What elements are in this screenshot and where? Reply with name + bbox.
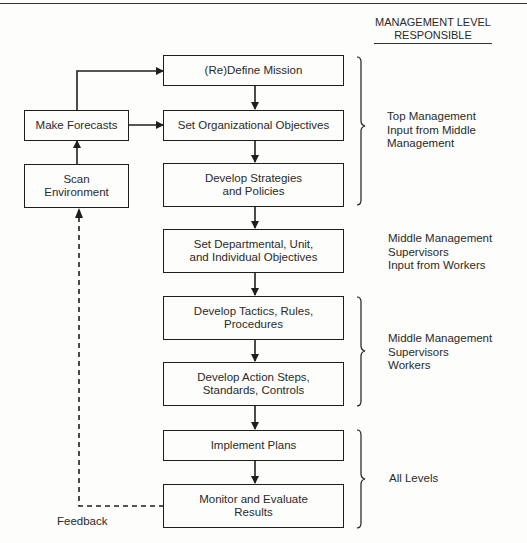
box-label: Implement Plans (211, 439, 297, 452)
box-tactics-rules: Develop Tactics, Rules, Procedures (163, 296, 344, 340)
box-label: Develop Strategies and Policies (205, 172, 302, 198)
box-make-forecasts: Make Forecasts (24, 110, 129, 141)
level-middle-input-workers: Middle Management Supervisors Input from… (388, 232, 492, 273)
box-label: Set Organizational Objectives (178, 119, 330, 132)
level-top-management: Top Management Input from Middle Managem… (387, 110, 476, 151)
box-label: Develop Tactics, Rules, Procedures (194, 305, 313, 331)
header-underline (374, 43, 492, 44)
level-middle-workers: Middle Management Supervisors Workers (388, 332, 492, 373)
box-label: Make Forecasts (36, 119, 118, 132)
management-level-header: MANAGEMENT LEVEL RESPONSIBLE (372, 16, 494, 42)
box-define-mission: (Re)Define Mission (163, 55, 344, 86)
level-all: All Levels (389, 472, 438, 486)
box-label: Scan Environment (44, 173, 109, 199)
box-label: Develop Action Steps, Standards, Control… (197, 371, 310, 397)
box-monitor-evaluate: Monitor and Evaluate Results (163, 484, 344, 528)
box-strategies-policies: Develop Strategies and Policies (163, 163, 344, 207)
box-scan-environment: Scan Environment (24, 164, 129, 208)
box-action-steps: Develop Action Steps, Standards, Control… (163, 362, 344, 406)
feedback-label: Feedback (57, 515, 108, 527)
box-label: Set Departmental, Unit, and Individual O… (190, 238, 318, 264)
box-label: (Re)Define Mission (205, 64, 303, 77)
box-departmental-objectives: Set Departmental, Unit, and Individual O… (163, 229, 344, 273)
box-org-objectives: Set Organizational Objectives (163, 110, 344, 141)
box-implement-plans: Implement Plans (163, 430, 344, 461)
box-label: Monitor and Evaluate Results (199, 493, 308, 519)
